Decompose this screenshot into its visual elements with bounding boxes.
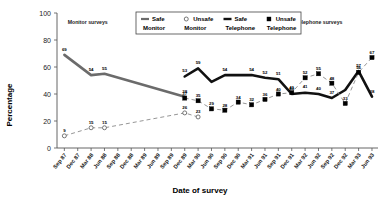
y-tick-label: 40: [43, 91, 51, 98]
marker-unsafe_telephone: [343, 101, 347, 105]
marker-unsafe_telephone: [196, 99, 200, 103]
data-label: 29: [209, 101, 214, 106]
marker-unsafe_telephone: [370, 55, 374, 59]
data-label: 54: [249, 67, 254, 72]
y-axis-title: Percentage: [5, 83, 14, 127]
marker-unsafe_monitor: [62, 134, 66, 138]
data-label: 33: [343, 96, 348, 101]
chart-annotation: Monitor surveys: [68, 19, 108, 25]
data-label: 37: [182, 91, 187, 96]
marker-unsafe_monitor: [183, 111, 187, 115]
data-label: 35: [196, 93, 201, 98]
data-label: 55: [316, 66, 321, 71]
legend-label-line2: Monitor: [184, 25, 207, 31]
data-label: 28: [222, 103, 227, 108]
data-label: 26: [182, 105, 187, 110]
marker-unsafe_telephone: [183, 96, 187, 100]
data-label: 23: [196, 109, 201, 114]
legend-label-line1: Unsafe: [276, 16, 297, 22]
y-tick-label: 20: [43, 118, 51, 125]
x-axis-title: Date of survey: [172, 186, 228, 195]
data-label: 52: [303, 70, 308, 75]
survey-line-chart: Percentage 020406080100 Sep 87Dec 87Mar …: [0, 0, 385, 203]
marker-unsafe_telephone: [290, 91, 294, 95]
legend-label-line1: Safe: [152, 16, 165, 22]
chart-annotation: Telephone surveys: [296, 19, 343, 25]
marker-unsafe_telephone: [357, 70, 361, 74]
data-label: 15: [102, 120, 107, 125]
y-tick-label: 60: [43, 64, 51, 71]
marker-unsafe_monitor: [196, 115, 200, 119]
data-label: 59: [196, 60, 201, 65]
legend-label-line1: Safe: [235, 16, 248, 22]
marker-unsafe_telephone: [209, 107, 213, 111]
marker-unsafe_monitor: [102, 126, 106, 130]
legend-glyph-unsafe-telephone: [267, 17, 271, 21]
data-label: 37: [329, 90, 334, 95]
marker-unsafe_telephone: [303, 76, 307, 80]
data-label: 41: [289, 85, 294, 90]
legend-label-line2: Telephone: [267, 25, 297, 31]
y-tick-label: 0: [47, 145, 51, 152]
marker-unsafe_monitor: [89, 126, 93, 130]
data-label: 48: [329, 76, 334, 81]
data-label: 54: [222, 67, 227, 72]
data-label: 69: [62, 47, 67, 52]
marker-unsafe_telephone: [330, 81, 334, 85]
data-label: 32: [249, 97, 254, 102]
legend-label-line2: Monitor: [143, 25, 166, 31]
data-label: 36: [263, 92, 268, 97]
marker-unsafe_telephone: [236, 100, 240, 104]
data-label: 54: [89, 67, 94, 72]
marker-unsafe_telephone: [250, 103, 254, 107]
legend-label-line2: Telephone: [226, 25, 256, 31]
data-label: 52: [263, 70, 268, 75]
data-label: 40: [276, 87, 281, 92]
data-label: 51: [276, 71, 281, 76]
y-tick-label: 80: [43, 37, 51, 44]
marker-unsafe_telephone: [223, 108, 227, 112]
data-label: 56: [356, 65, 361, 70]
data-label: 15: [89, 120, 94, 125]
data-label: 67: [370, 50, 375, 55]
chart-legend[interactable]: SafeMonitorUnsafeMonitorSafeTelephoneUns…: [136, 12, 301, 34]
marker-unsafe_telephone: [263, 97, 267, 101]
y-tick-label: 100: [39, 10, 51, 17]
legend-label-line1: Unsafe: [193, 16, 214, 22]
data-label: 41: [303, 84, 308, 89]
data-label: 55: [102, 66, 107, 71]
marker-unsafe_telephone: [276, 92, 280, 96]
chart-container: Percentage 020406080100 Sep 87Dec 87Mar …: [0, 0, 385, 203]
data-label: 40: [316, 86, 321, 91]
data-label: 34: [236, 95, 241, 100]
data-label: 53: [182, 68, 187, 73]
marker-unsafe_telephone: [316, 72, 320, 76]
legend-glyph-unsafe-monitor: [184, 17, 188, 21]
data-label: 38: [370, 89, 375, 94]
